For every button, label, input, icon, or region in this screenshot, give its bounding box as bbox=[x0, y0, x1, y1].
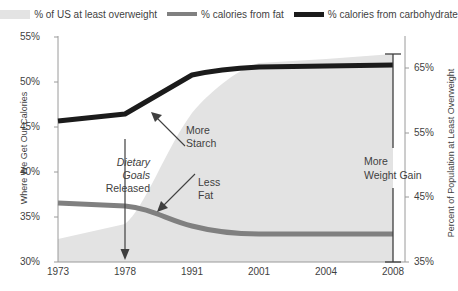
plot-area bbox=[0, 0, 458, 291]
chart-root: % of US at least overweight % calories f… bbox=[0, 0, 458, 291]
annotation-weight-line1: More bbox=[364, 154, 456, 168]
annotation-less-fat-line1: Less bbox=[198, 176, 220, 189]
annotation-more-starch-line2: Starch bbox=[186, 137, 216, 150]
annotation-less-fat-line2: Fat bbox=[198, 189, 220, 202]
annotation-dietary-line2: Goals bbox=[62, 169, 150, 182]
annotation-dietary-line1: Dietary bbox=[62, 156, 150, 169]
annotation-more-starch-line1: More bbox=[186, 124, 216, 137]
annotation-dietary-goals: Dietary Goals Released bbox=[62, 156, 150, 195]
annotation-weight-line2: Weight Gain bbox=[364, 168, 456, 182]
more-starch-arrow-icon bbox=[151, 112, 185, 146]
annotation-dietary-line3: Released bbox=[62, 182, 150, 195]
annotation-more-starch: More Starch bbox=[186, 124, 216, 150]
annotation-less-fat: Less Fat bbox=[198, 176, 220, 202]
annotation-more-weight-gain: More Weight Gain bbox=[364, 154, 456, 182]
